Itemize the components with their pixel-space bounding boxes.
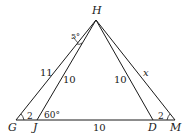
geometry-diagram: H G J D M 11 10 10 x 10 5° 60° 2 2 — [0, 0, 189, 138]
angle-arc-m — [167, 114, 170, 120]
length-label-hd: 10 — [114, 74, 127, 85]
vertex-label-d: D — [147, 121, 157, 134]
segment-hg — [16, 20, 96, 120]
length-label-hm: x — [143, 67, 149, 78]
vertex-label-m: M — [169, 121, 182, 134]
segment-hm — [96, 20, 175, 120]
vertex-label-j: J — [31, 121, 38, 134]
length-label-hg: 11 — [40, 67, 53, 78]
angle-label-m: 2 — [158, 111, 164, 121]
angle-label-5deg: 5° — [71, 32, 80, 41]
vertex-label-h: H — [91, 4, 102, 17]
angle-label-g: 2 — [27, 111, 33, 121]
vertex-label-g: G — [8, 121, 17, 134]
angle-arc-g — [21, 114, 24, 120]
length-label-hj: 10 — [63, 74, 76, 85]
angle-label-60deg: 60° — [44, 110, 60, 120]
length-label-jd: 10 — [93, 122, 106, 133]
